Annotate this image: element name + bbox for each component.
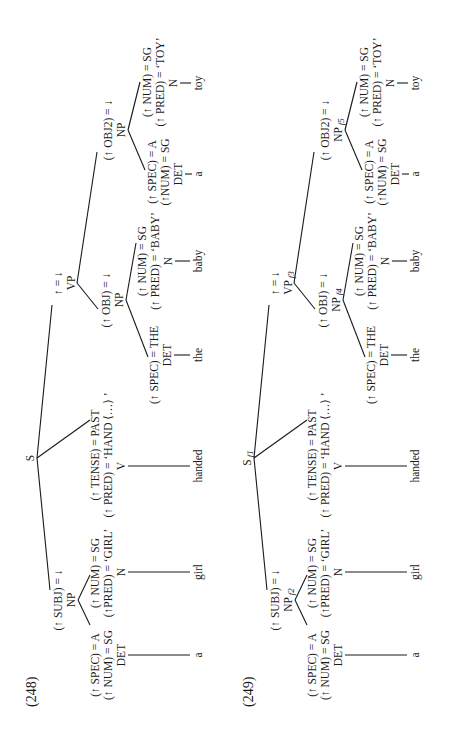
node-v: V (332, 461, 344, 470)
node-v: V (115, 461, 127, 470)
edge-s-subj (254, 458, 267, 590)
n-annotation: (↑ PRED) = ‘BABY’ (149, 212, 162, 310)
node-np-obj2: NPf5 (332, 118, 346, 142)
det-annotation: (↑NUM) = SG (376, 138, 389, 205)
edge-np-det (126, 300, 148, 357)
subj-annotation: (↑ SUBJ) = ↓ (269, 569, 282, 630)
node-det: DET (378, 344, 390, 366)
edge-np-det (128, 130, 145, 170)
edge-vp-obj2 (77, 152, 97, 283)
word-the: the (409, 348, 421, 362)
node-vp: VP (65, 276, 77, 291)
node-det: DET (389, 163, 401, 185)
example-number: (249) (241, 676, 257, 707)
v-annotation: (↑ PRED) = ‘HAND ⟨…⟩ ’ (102, 392, 115, 517)
vp-annotation: ↑ = ↓ (52, 271, 64, 295)
word-a: a (409, 171, 421, 176)
node-n: N (167, 78, 179, 87)
node-np-obj: NP (113, 293, 125, 308)
obj-annotation: (↑ OBJ) = ↓ (317, 273, 330, 328)
node-det: DET (161, 344, 173, 366)
vp-annotation: ↑ = ↓ (269, 271, 281, 295)
edge-vp-obj (77, 283, 98, 309)
tree-248: (248) S (↑ SUBJ) = ↓ NP (↑ SPEC) = A (↑ … (24, 37, 205, 707)
node-n: N (379, 256, 391, 265)
n-annotation: (↑PRED) = ‘GIRL’ (102, 529, 115, 617)
det-annotation: (↑ SPEC) = A (89, 632, 102, 696)
example-number: (248) (24, 676, 40, 707)
node-np-subj: NPf2 (282, 588, 296, 612)
word-girl: girl (192, 564, 205, 580)
node-np-obj: NPf4 (330, 288, 344, 312)
det-annotation: (↑ NUM) = SG (102, 630, 115, 700)
word-baby: baby (409, 250, 422, 273)
n-annotation: (↑ PRED) = ‘TOY’ (371, 37, 384, 126)
n-annotation: (↑ PRED) = ‘TOY’ (154, 37, 167, 126)
edge-np-n (128, 82, 140, 130)
node-np-subj: NP (65, 593, 77, 608)
det-annotation: (↑NUM) = SG (159, 138, 172, 205)
word-a: a (192, 652, 204, 657)
n-annotation: (↑ NUM) = SG (358, 47, 371, 117)
n-annotation: (↑PRED) = ‘GIRL’ (319, 529, 332, 617)
word-toy: toy (192, 75, 205, 90)
subj-annotation: (↑ SUBJ) = ↓ (52, 569, 65, 630)
word-girl: girl (409, 564, 422, 580)
book-page: (248) S (↑ SUBJ) = ↓ NP (↑ SPEC) = A (↑ … (0, 0, 450, 737)
node-det: DET (172, 163, 184, 185)
det-annotation: (↑ SPEC) = A (363, 139, 376, 203)
det-annotation: (↑ SPEC) = A (146, 139, 159, 203)
n-annotation: (↑ NUM) = SG (136, 226, 149, 296)
node-n: N (162, 256, 174, 265)
word-the: the (192, 348, 204, 362)
edge-np-n (126, 243, 136, 300)
word-toy: toy (409, 75, 422, 90)
edge-s-vp (37, 305, 52, 458)
n-annotation: (↑ PRED) = ‘BABY’ (366, 212, 379, 310)
word-baby: baby (192, 250, 205, 273)
v-annotation: (↑ TENSE) = PAST (306, 409, 319, 500)
edge-s-subj (37, 458, 50, 590)
n-annotation: (↑ NUM) = SG (89, 538, 102, 608)
det-annotation: (↑ SPEC) = THE (148, 326, 161, 404)
n-annotation: (↑ NUM) = SG (353, 226, 366, 296)
obj-annotation: (↑ OBJ) = ↓ (100, 273, 113, 328)
edge-np-det (345, 130, 362, 170)
node-s: Sf1 (241, 450, 255, 465)
node-n: N (332, 567, 344, 576)
node-n: N (384, 78, 396, 87)
edge-np-n (343, 243, 353, 300)
edge-s-v (254, 420, 307, 458)
n-annotation: (↑ NUM) = SG (306, 538, 319, 608)
det-annotation: (↑ SPEC) = A (306, 632, 319, 696)
det-annotation: (↑ SPEC) = THE (365, 326, 378, 404)
v-annotation: (↑ TENSE) = PAST (89, 409, 102, 500)
word-handed: handed (192, 449, 204, 482)
word-a: a (409, 652, 421, 657)
node-n: N (115, 567, 127, 576)
det-annotation: (↑ NUM) = SG (319, 630, 332, 700)
edge-np-det (343, 300, 365, 357)
edge-np-n (345, 82, 357, 130)
obj2-annotation: (↑ OBJ2) = ↓ (319, 100, 332, 160)
node-det: DET (332, 644, 344, 666)
node-np-obj2: NP (115, 123, 127, 138)
n-annotation: (↑ NUM) = SG (141, 47, 154, 117)
edge-s-vp (254, 305, 269, 458)
obj2-annotation: (↑ OBJ2) = ↓ (102, 100, 115, 160)
word-handed: handed (409, 449, 421, 482)
edge-s-v (37, 420, 90, 458)
word-a: a (192, 171, 204, 176)
node-s: S (24, 455, 36, 461)
tree-249: (249) Sf1 (↑ SUBJ) = ↓ NPf2 (↑ SPEC) = A… (241, 37, 422, 707)
node-det: DET (115, 644, 127, 666)
edge-vp-obj (294, 283, 315, 309)
edge-vp-obj2 (294, 152, 314, 283)
rotated-content: (248) S (↑ SUBJ) = ↓ NP (↑ SPEC) = A (↑ … (0, 0, 450, 737)
v-annotation: (↑ PRED) = ‘HAND ⟨…⟩ ’ (319, 392, 332, 517)
